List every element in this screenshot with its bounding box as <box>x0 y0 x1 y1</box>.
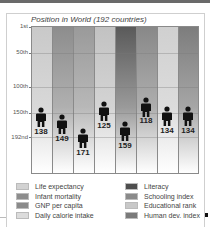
rank-label: 138 <box>30 127 52 136</box>
y-tick: 100th <box>6 83 28 89</box>
legend-label: Life expectancy <box>35 183 84 190</box>
rank-label: 149 <box>51 134 73 143</box>
rank-label: 118 <box>135 116 157 125</box>
legend-swatch <box>16 202 29 209</box>
legend-swatch <box>16 183 29 190</box>
rank-label: 159 <box>114 141 136 150</box>
y-tick: 192nd <box>6 134 28 140</box>
column-life-expectancy <box>32 27 53 173</box>
person-icon <box>77 128 89 148</box>
person-icon <box>35 107 47 127</box>
column-literacy <box>116 27 137 173</box>
legend-item: Daily calorie intake <box>16 211 94 220</box>
legend-item: Infant mortality <box>16 192 94 201</box>
person-icon <box>161 106 173 126</box>
plot-area <box>31 26 199 174</box>
rank-label: 125 <box>93 121 115 130</box>
legend-right: Literacy Schooling index Educational ran… <box>125 182 200 220</box>
legend-label: Educational rank <box>144 202 196 209</box>
person-icon <box>182 106 194 126</box>
gridline <box>32 53 198 54</box>
legend-item: Educational rank <box>125 201 200 210</box>
legend-swatch <box>125 212 138 219</box>
legend-label: Human dev. index <box>144 212 200 219</box>
legend-item: Schooling index <box>125 192 200 201</box>
person-icon <box>56 114 68 134</box>
legend-swatch <box>16 193 29 200</box>
top-border <box>0 0 210 3</box>
rank-label: 134 <box>177 126 199 135</box>
gridline <box>32 87 198 88</box>
legend-item: Life expectancy <box>16 182 94 191</box>
legend-label: Daily calorie intake <box>35 212 94 219</box>
legend-swatch <box>125 193 138 200</box>
legend-item: Literacy <box>125 182 200 191</box>
column-infant-mortality <box>53 27 74 173</box>
column-educational-rank <box>158 27 179 173</box>
person-icon <box>119 121 131 141</box>
y-tick: 50th <box>6 49 28 55</box>
rank-label: 134 <box>156 126 178 135</box>
legend-label: Literacy <box>144 183 169 190</box>
y-tick: 150th <box>6 109 28 115</box>
column-daily-calorie-intake <box>95 27 116 173</box>
y-tick: 1st <box>6 23 28 29</box>
legend-item: Human dev. index <box>125 211 200 220</box>
marker <box>205 213 208 217</box>
rank-label: 171 <box>72 148 94 157</box>
column-human-dev-index <box>179 27 199 173</box>
legend-item: GNP per capita <box>16 201 94 210</box>
legend-label: Infant mortality <box>35 193 81 200</box>
legend-swatch <box>125 183 138 190</box>
chart-title: Position in World (192 countries) <box>31 15 147 24</box>
person-icon <box>98 101 110 121</box>
legend-swatch <box>125 202 138 209</box>
legend-label: GNP per capita <box>35 202 83 209</box>
person-icon <box>140 97 152 117</box>
legend-swatch <box>16 212 29 219</box>
legend-left: Life expectancy Infant mortality GNP per… <box>16 182 94 220</box>
legend-label: Schooling index <box>144 193 193 200</box>
